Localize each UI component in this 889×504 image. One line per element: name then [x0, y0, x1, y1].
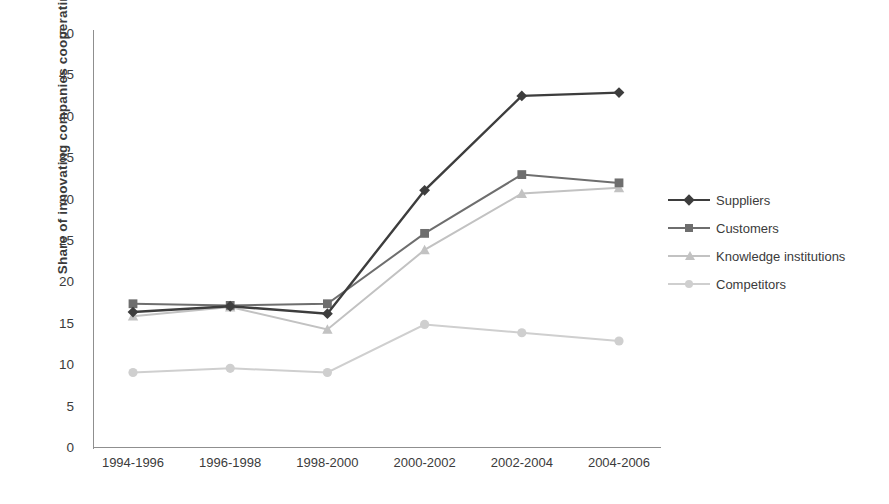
legend-label: Knowledge institutions [716, 249, 845, 264]
series-line [133, 93, 619, 314]
y-axis-tick: 45 [40, 67, 74, 82]
legend-item-suppliers[interactable]: Suppliers [668, 186, 883, 214]
data-point [517, 170, 526, 179]
y-axis-tick: 15 [40, 315, 74, 330]
x-axis-tick: 1996-1998 [199, 455, 261, 470]
series-competitors [128, 320, 623, 377]
series-line [133, 325, 619, 373]
x-axis-tick: 2004-2006 [588, 455, 650, 470]
legend-item-knowledge-institutions[interactable]: Knowledge institutions [668, 242, 883, 270]
series-knowledge-institutions [128, 183, 624, 334]
x-axis-tick-labels: 1994-19961996-19981998-20002000-20022002… [93, 455, 659, 479]
chart-legend: SuppliersCustomersKnowledge institutions… [668, 186, 883, 298]
x-axis-tick: 2000-2002 [394, 455, 456, 470]
y-axis-tick: 20 [40, 274, 74, 289]
y-axis-tick: 50 [40, 26, 74, 41]
y-axis-tick: 0 [40, 440, 74, 455]
data-point [128, 368, 137, 377]
data-point [419, 245, 429, 255]
legend-marker-diamond-icon [683, 194, 694, 205]
y-axis-tick: 35 [40, 150, 74, 165]
plot-area [93, 33, 659, 447]
y-axis-tick: 10 [40, 357, 74, 372]
series-line [133, 175, 619, 306]
legend-item-competitors[interactable]: Competitors [668, 270, 883, 298]
line-chart: Share of innovating companies cooperatin… [0, 0, 889, 504]
legend-marker-circle-icon [685, 280, 693, 288]
series-layer [93, 33, 659, 447]
series-suppliers [128, 87, 625, 319]
y-axis-tick: 30 [40, 191, 74, 206]
legend-item-customers[interactable]: Customers [668, 214, 883, 242]
data-point [615, 178, 624, 187]
x-axis-tick: 1998-2000 [296, 455, 358, 470]
x-axis-line [93, 447, 661, 448]
legend-label: Suppliers [716, 193, 770, 208]
y-axis-tick: 25 [40, 233, 74, 248]
legend-label: Customers [716, 221, 779, 236]
legend-marker-square-icon [685, 224, 693, 232]
y-axis-tick: 40 [40, 108, 74, 123]
x-axis-tick: 2002-2004 [491, 455, 553, 470]
legend-label: Competitors [716, 277, 786, 292]
legend-swatch-triangle-icon [668, 249, 710, 263]
data-point [614, 87, 625, 98]
legend-swatch-square-icon [668, 221, 710, 235]
data-point [517, 328, 526, 337]
data-point [323, 299, 332, 308]
x-axis-tick: 1994-1996 [102, 455, 164, 470]
data-point [226, 364, 235, 373]
legend-marker-triangle-icon [685, 251, 695, 260]
data-point [420, 320, 429, 329]
legend-swatch-diamond-icon [668, 193, 710, 207]
data-point [323, 368, 332, 377]
y-axis-tick: 5 [40, 398, 74, 413]
data-point [420, 229, 429, 238]
y-axis-tick-labels: 50454035302520151050 [40, 0, 74, 504]
data-point [614, 336, 623, 345]
legend-swatch-circle-icon [668, 277, 710, 291]
